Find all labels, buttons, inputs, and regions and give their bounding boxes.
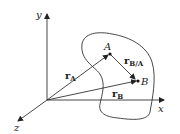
vector-rB-label: rB — [112, 88, 123, 101]
z-axis-label: z — [13, 122, 20, 133]
z-axis — [18, 100, 47, 121]
point-A — [108, 52, 111, 55]
point-B-label: B — [140, 76, 148, 87]
y-axis-label: y — [35, 9, 42, 20]
vector-rA-label: rA — [65, 70, 76, 83]
diagram-canvas: y x z A B rA rB rB/A — [0, 0, 180, 134]
x-axis-label: x — [158, 103, 164, 114]
point-B — [136, 79, 139, 82]
point-A-label: A — [103, 41, 111, 52]
vector-rBA-label: rB/A — [124, 55, 144, 68]
